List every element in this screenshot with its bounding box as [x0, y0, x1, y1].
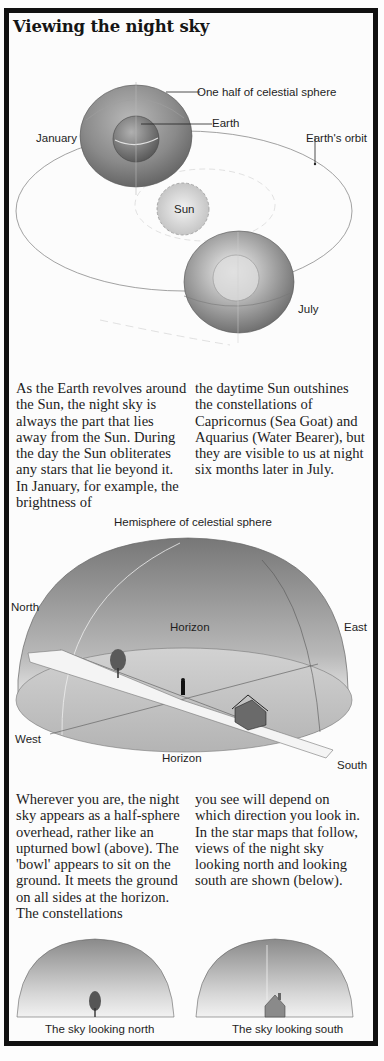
label-hemisphere: Hemisphere of celestial sphere — [114, 516, 272, 528]
label-earths-orbit: Earth's orbit — [306, 132, 367, 144]
label-earth: Earth — [212, 117, 240, 129]
paragraph-1-col-1: As the Earth revolves around the Sun, th… — [16, 380, 188, 510]
label-january: January — [36, 132, 77, 144]
label-east: East — [344, 621, 367, 633]
label-horizon-bottom: Horizon — [162, 752, 202, 764]
label-horizon-top: Horizon — [170, 621, 210, 633]
paragraph-1-col-2: the daytime Sun outshines the constellat… — [195, 380, 367, 478]
label-celestial-half: One half of celestial sphere — [197, 86, 336, 98]
caption-sky-south: The sky looking south — [232, 1023, 343, 1035]
sky-south-view — [196, 939, 353, 1017]
paragraph-2-col-1: Wherever you are, the night sky appears … — [16, 791, 188, 921]
paragraph-2-col-2: you see will depend on which direction y… — [195, 791, 367, 889]
label-july: July — [298, 303, 318, 315]
label-north: North — [11, 601, 39, 613]
hemisphere-diagram — [16, 538, 352, 758]
label-sun: Sun — [174, 203, 194, 215]
caption-sky-north: The sky looking north — [45, 1023, 154, 1035]
label-south: South — [337, 759, 367, 771]
sky-north-view — [17, 939, 174, 1017]
label-west: West — [15, 733, 41, 745]
